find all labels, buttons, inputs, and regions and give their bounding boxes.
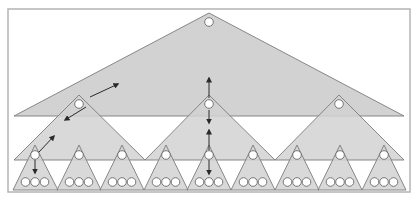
node-level-2-2 [118, 151, 127, 160]
leaf-node-2-0 [108, 178, 117, 187]
leaf-node-0-2 [40, 178, 49, 187]
node-level-2-7 [336, 151, 345, 160]
leaf-node-7-1 [336, 178, 345, 187]
leaf-node-8-2 [389, 178, 398, 187]
leaf-node-6-1 [293, 178, 302, 187]
leaf-node-6-2 [302, 178, 311, 187]
leaf-node-5-2 [258, 178, 267, 187]
leaf-node-5-0 [239, 178, 248, 187]
node-level-2-1 [75, 151, 84, 160]
leaf-node-0-0 [21, 178, 30, 187]
node-level-2-3 [162, 151, 171, 160]
leaf-node-3-2 [171, 178, 180, 187]
tree-diagram [0, 0, 417, 199]
node-level-0-0 [205, 18, 214, 27]
node-level-2-5 [249, 151, 258, 160]
leaf-node-1-0 [65, 178, 74, 187]
leaf-node-7-2 [345, 178, 354, 187]
node-level-1-0 [75, 100, 84, 109]
leaf-node-4-0 [195, 178, 204, 187]
leaf-node-1-1 [75, 178, 84, 187]
node-level-2-0 [31, 151, 40, 160]
leaf-node-3-1 [162, 178, 171, 187]
leaf-node-2-2 [127, 178, 136, 187]
leaf-node-1-2 [84, 178, 93, 187]
node-level-2-4 [205, 151, 214, 160]
leaf-node-5-1 [249, 178, 258, 187]
node-level-1-2 [335, 100, 344, 109]
leaf-node-0-1 [31, 178, 40, 187]
leaf-node-2-1 [118, 178, 127, 187]
leaf-node-3-0 [152, 178, 161, 187]
leaf-node-4-1 [205, 178, 214, 187]
leaf-node-8-0 [370, 178, 379, 187]
node-level-2-6 [293, 151, 302, 160]
leaf-node-4-2 [214, 178, 223, 187]
node-level-1-1 [205, 100, 214, 109]
leaf-node-7-0 [326, 178, 335, 187]
node-level-2-8 [380, 151, 389, 160]
leaf-node-8-1 [380, 178, 389, 187]
leaf-node-6-0 [283, 178, 292, 187]
